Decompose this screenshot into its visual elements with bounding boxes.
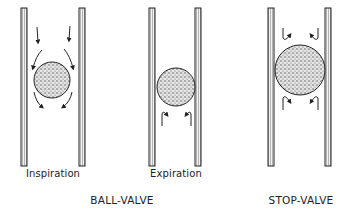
expiration-label: Expiration (150, 168, 202, 179)
ball (275, 45, 325, 95)
ball (34, 62, 70, 98)
inspiration-panel (21, 8, 85, 166)
tube-wall-left (21, 8, 27, 166)
ball (157, 68, 195, 106)
stop-valve-title: STOP-VALVE (269, 194, 334, 206)
valve-diagram (0, 0, 349, 212)
tube-wall-left (149, 8, 155, 166)
tube-wall-right (79, 8, 85, 166)
tube-wall-left (268, 8, 274, 166)
inspiration-label: Inspiration (26, 168, 80, 179)
expiration-panel (149, 8, 201, 166)
tube-wall-right (195, 8, 201, 166)
stop-valve-panel (268, 8, 331, 166)
tube-wall-right (325, 8, 331, 166)
ball-valve-title: BALL-VALVE (90, 194, 153, 206)
airflow-arrows (162, 112, 191, 126)
